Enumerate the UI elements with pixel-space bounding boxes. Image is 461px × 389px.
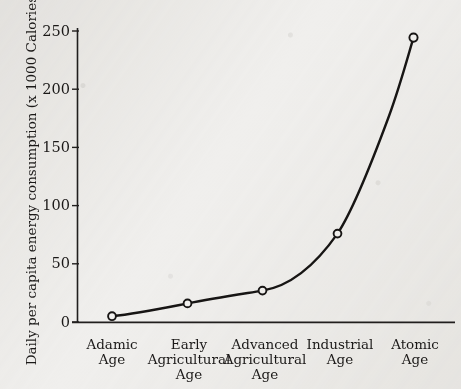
energy-consumption-line-chart: Daily per capita energy consumption (x 1… [0,0,461,389]
x-label-early-line-2: Agricultural [147,351,231,367]
data-point-early-agricultural-age[interactable] [184,300,192,308]
x-label-adamic-line-1: Adamic [85,336,137,352]
x-label-advanced-line-2: Agricultural [223,351,307,367]
x-label-early-line-3: Age [175,366,202,382]
x-category-atomic-age: Atomic Age [390,336,439,367]
data-point-markers [108,34,418,321]
data-point-industrial-age[interactable] [334,230,342,238]
x-label-atomic-line-1: Atomic [390,336,439,352]
y-axis-label: Daily per capita energy consumption (x 1… [23,0,39,365]
x-label-adamic-line-2: Age [98,351,125,367]
y-tick-label-250: 250 [42,23,70,39]
x-label-advanced-line-3: Age [251,366,278,382]
x-axis-category-labels: Adamic Age Early Agricultural Age Advanc… [85,336,438,382]
x-label-early-line-1: Early [171,336,208,352]
x-label-industrial-line-1: Industrial [307,336,374,352]
data-point-advanced-agricultural-age[interactable] [259,287,267,295]
y-tick-label-150: 150 [42,139,70,155]
x-category-industrial-age: Industrial Age [307,336,374,367]
x-category-adamic-age: Adamic Age [85,336,137,367]
y-tick-label-50: 50 [52,255,70,271]
x-label-industrial-line-2: Age [326,351,353,367]
data-point-atomic-age[interactable] [409,34,417,42]
y-tick-label-100: 100 [42,197,70,213]
y-tick-labels: 250 200 150 100 50 0 [42,23,70,330]
y-tick-label-0: 0 [61,314,70,330]
data-point-adamic-age[interactable] [108,312,116,320]
data-series-curve [112,38,414,317]
x-label-advanced-line-1: Advanced [231,336,299,352]
x-category-advanced-agricultural-age: Advanced Agricultural Age [223,336,307,382]
figure-page: Daily per capita energy consumption (x 1… [0,0,461,389]
x-category-early-agricultural-age: Early Agricultural Age [147,336,231,382]
y-tick-label-200: 200 [42,81,70,97]
x-label-atomic-line-2: Age [401,351,428,367]
y-axis-label-group: Daily per capita energy consumption (x 1… [23,0,39,365]
